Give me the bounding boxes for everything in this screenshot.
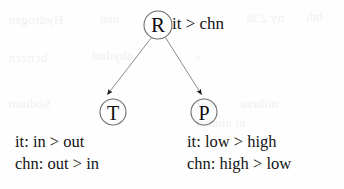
node-label-root: R: [143, 15, 173, 36]
figure-canvas: Hydrogennonny 238hthbcnzcnohydndsSodiumo…: [0, 0, 344, 189]
root-ranking-label: it > chn: [172, 15, 224, 32]
right-ranking-line-1: it: low > high: [187, 131, 291, 153]
edge-root-to-right: [166, 38, 202, 95]
left-ranking-line-2: chn: out > in: [15, 153, 99, 175]
left-ranking-annotation: it: in > out chn: out > in: [15, 131, 99, 175]
node-label-left: T: [98, 103, 128, 123]
left-ranking-line-1: it: in > out: [15, 131, 99, 153]
right-ranking-annotation: it: low > high chn: high > low: [187, 131, 291, 175]
right-ranking-line-2: chn: high > low: [187, 153, 291, 175]
node-label-right: P: [189, 103, 219, 123]
edge-root-to-left: [108, 38, 152, 95]
